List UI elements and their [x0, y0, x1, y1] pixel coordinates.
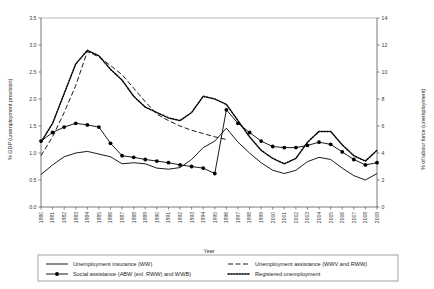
series-marker [213, 172, 217, 176]
series-line-0 [41, 128, 377, 180]
series-line-2 [41, 110, 377, 174]
x-tick-label: 1980 [38, 212, 44, 223]
y-tick-label: 1.0 [29, 150, 36, 156]
x-tick-label: 1993 [189, 212, 195, 223]
y-tick-label: 0.0 [29, 204, 36, 210]
series-marker [178, 163, 182, 167]
y2-tick-label: 14 [382, 15, 388, 21]
y-axis-right-ticks: 02468101214 [377, 15, 387, 210]
series-marker [120, 154, 124, 158]
y2-tick-label: 2 [382, 177, 385, 183]
series-marker [294, 146, 298, 150]
y2-tick-label: 6 [382, 123, 385, 129]
series-marker [201, 166, 205, 170]
x-tick-label: 2009 [374, 212, 380, 223]
x-tick-label: 1987 [119, 212, 125, 223]
series-marker [74, 121, 78, 125]
x-tick-label: 1982 [61, 212, 67, 223]
x-tick-label: 1996 [223, 212, 229, 223]
series-marker [271, 145, 275, 149]
series-marker [167, 161, 171, 165]
x-tick-label: 1981 [49, 212, 55, 223]
series-marker [340, 150, 344, 154]
legend-label-2: Social assistance (ABW (exl. RWW) and WW… [73, 271, 191, 277]
series-marker [329, 142, 333, 146]
series-marker [259, 139, 263, 143]
x-tick-label: 2008 [362, 212, 368, 223]
x-tick-label: 1989 [142, 212, 148, 223]
legend-label-1: Unemployment assistance (WWV and RWW) [255, 261, 367, 267]
series-marker [248, 131, 252, 135]
series-marker [364, 163, 368, 167]
y2-tick-label: 12 [382, 42, 388, 48]
y2-tick-label: 4 [382, 150, 385, 156]
plot-frame [41, 18, 377, 207]
y-tick-label: 2.0 [29, 96, 36, 102]
series-marker [155, 159, 159, 163]
y2-tick-label: 10 [382, 69, 388, 75]
y-tick-label: 3.0 [29, 42, 36, 48]
y2-tick-label: 8 [382, 96, 385, 102]
x-tick-label: 1984 [84, 212, 90, 223]
y-tick-label: 3.5 [29, 15, 36, 21]
x-tick-label: 1997 [235, 212, 241, 223]
series-marker [132, 155, 136, 159]
series-marker [85, 123, 89, 127]
series-marker [317, 140, 321, 144]
series-marker [97, 125, 101, 129]
y-tick-label: 2.5 [29, 69, 36, 75]
legend-box [38, 255, 398, 281]
y-tick-label: 1.5 [29, 123, 36, 129]
series-marker [109, 141, 113, 145]
x-tick-label: 2005 [328, 212, 334, 223]
x-tick-label: 1991 [165, 212, 171, 223]
x-axis-title: Year [204, 248, 215, 254]
x-tick-label: 1983 [73, 212, 79, 223]
series-marker [282, 146, 286, 150]
legend-label-0: Unemployment insurance (WW) [73, 261, 152, 267]
x-tick-label: 1995 [212, 212, 218, 223]
x-tick-label: 2004 [316, 212, 322, 223]
x-tick-label: 1998 [246, 212, 252, 223]
x-tick-label: 1990 [154, 212, 160, 223]
y-axis-right-title: % of labour force (unemployment) [420, 89, 426, 170]
y-tick-label: 0.5 [29, 177, 36, 183]
series-line-3 [41, 50, 377, 163]
y-axis-left-ticks: 0.00.51.01.52.02.53.03.5 [29, 15, 41, 210]
series-marker [375, 161, 379, 165]
x-tick-label: 2002 [293, 212, 299, 223]
legend-entries: Unemployment insurance (WW)Unemployment … [46, 261, 367, 277]
x-tick-label: 1999 [258, 212, 264, 223]
x-tick-label: 2000 [270, 212, 276, 223]
y2-tick-label: 0 [382, 204, 385, 210]
chart-figure: 0.00.51.01.52.02.53.03.5 02468101214 198… [0, 0, 434, 289]
series-marker [143, 158, 147, 162]
legend-marker-2 [55, 272, 59, 276]
x-tick-label: 1986 [107, 212, 113, 223]
x-tick-label: 2006 [339, 212, 345, 223]
y-axis-left-title: % GDP (unemployment provision) [7, 78, 13, 160]
x-tick-label: 1994 [200, 212, 206, 223]
series-marker [62, 125, 66, 129]
x-tick-label: 1985 [96, 212, 102, 223]
series-marker [224, 108, 228, 112]
series-layer [39, 50, 379, 180]
x-tick-label: 1992 [177, 212, 183, 223]
x-tick-label: 2007 [351, 212, 357, 223]
chart-plot-area: 0.00.51.01.52.02.53.03.5 02468101214 198… [0, 0, 434, 289]
x-tick-label: 2001 [281, 212, 287, 223]
legend-label-3: Registered unemployment [255, 271, 321, 277]
series-marker [51, 131, 55, 135]
x-tick-label: 2003 [304, 212, 310, 223]
x-axis-ticks: 1980198119821983198419851986198719881989… [38, 207, 380, 223]
series-marker [190, 165, 194, 169]
x-tick-label: 1988 [131, 212, 137, 223]
series-marker [352, 158, 356, 162]
